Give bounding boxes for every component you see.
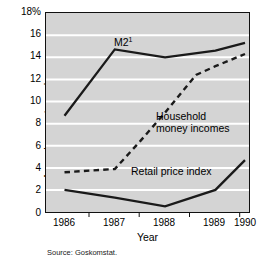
series-annotation-m2-superscript: 1 xyxy=(129,36,133,43)
y-tick-label: 18% xyxy=(8,7,41,17)
y-tick-label: 2 xyxy=(8,185,41,195)
y-tick-label: 14 xyxy=(8,51,41,61)
series-annotation-m2: M21 xyxy=(114,34,133,48)
x-tick-label-1990: 1990 xyxy=(234,217,256,228)
chart-figure: Annual percentage change 18% 16 14 12 10… xyxy=(0,0,261,262)
plot-area: M21 Household money incomes Retail price… xyxy=(45,12,250,213)
y-tick-label: 6 xyxy=(8,141,41,151)
series-annotation-hmi-line2: money incomes xyxy=(156,123,230,135)
y-tick-label: 4 xyxy=(8,163,41,173)
series-annotation-m2-text: M2 xyxy=(114,36,129,48)
series-annotation-household-money-incomes: Household money incomes xyxy=(156,111,230,134)
x-tick-label-1987: 1987 xyxy=(103,217,125,228)
y-tick-label: 8 xyxy=(8,118,41,128)
y-tick-label: 0 xyxy=(8,208,41,218)
x-tick-label-1988: 1988 xyxy=(153,217,175,228)
y-axis-tick-labels: 18% 16 14 12 10 8 6 4 2 0 xyxy=(8,0,41,262)
y-tick-label: 10 xyxy=(8,96,41,106)
y-tick-label: 12 xyxy=(8,74,41,84)
x-tick-label-1989: 1989 xyxy=(203,217,225,228)
x-tick-label-1986: 1986 xyxy=(53,217,75,228)
series-annotation-retail-price-index: Retail price index xyxy=(131,166,212,178)
x-axis-title: Year xyxy=(45,231,250,243)
source-note: Source: Goskomstat. xyxy=(47,248,117,257)
y-tick-label: 16 xyxy=(8,29,41,39)
series-annotation-hmi-line1: Household xyxy=(156,111,230,123)
